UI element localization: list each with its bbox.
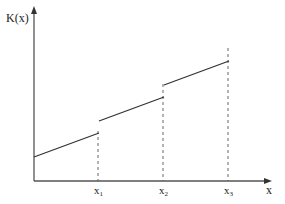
- y-axis-arrow-icon: [31, 6, 37, 14]
- k-segment-3: [164, 61, 229, 85]
- tick-label-x3: x3: [224, 185, 233, 198]
- x-axis-label: x: [266, 184, 272, 196]
- y-axis-label: K(x): [6, 12, 29, 24]
- tick-label-x2: x2: [159, 185, 168, 198]
- k-segment-2: [99, 97, 164, 121]
- tick-label-x1: x1: [94, 185, 103, 198]
- k-function-line: [34, 61, 229, 157]
- k-segment-1: [34, 133, 99, 157]
- chart-canvas: [0, 0, 285, 204]
